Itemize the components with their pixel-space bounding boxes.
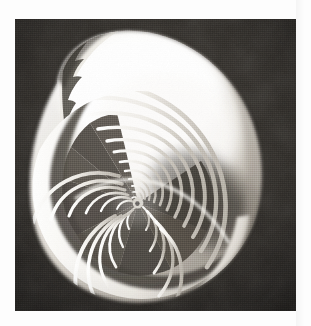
film-grain [15, 19, 296, 311]
photograph [15, 19, 296, 311]
page-root: Nautilus shell sectioned along the plane… [0, 0, 311, 326]
nautilus-shell-image [15, 19, 296, 311]
